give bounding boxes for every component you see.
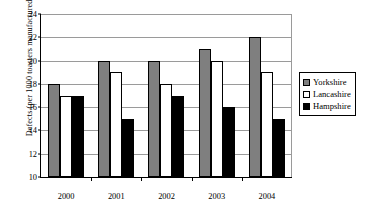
legend-swatch-icon xyxy=(303,91,310,98)
bar-yorkshire-2004 xyxy=(249,37,261,177)
x-tick-mark xyxy=(242,177,243,181)
bar-hampshire-2002 xyxy=(172,96,184,178)
bar-lancashire-2003 xyxy=(211,61,223,177)
bar-yorkshire-2002 xyxy=(148,61,160,177)
y-tick-label: 22 xyxy=(29,33,37,42)
y-tick-label: 18 xyxy=(29,79,37,88)
x-tick-mark xyxy=(192,177,193,181)
y-tick-label: 24 xyxy=(29,10,37,19)
bar-group xyxy=(242,14,292,177)
x-tick-label: 2004 xyxy=(259,192,276,201)
bar-group xyxy=(41,14,91,177)
y-tick-label: 10 xyxy=(29,173,37,182)
bar-lancashire-2001 xyxy=(110,72,122,177)
legend-item-hampshire[interactable]: Hampshire xyxy=(303,100,351,112)
bar-group xyxy=(141,14,191,177)
y-tick-label: 14 xyxy=(29,126,37,135)
bar-lancashire-2002 xyxy=(160,84,172,177)
bar-chart: Defects (per 1000 toasters manufactured)… xyxy=(0,0,372,203)
x-tick-label: 2000 xyxy=(58,192,75,201)
plot-area: 2422201816141210 20002001200220032004 xyxy=(40,14,292,178)
bar-lancashire-2000 xyxy=(60,96,72,178)
bar-lancashire-2004 xyxy=(261,72,273,177)
legend-label: Hampshire xyxy=(313,101,351,111)
legend-item-yorkshire[interactable]: Yorkshire xyxy=(303,76,351,88)
bar-hampshire-2000 xyxy=(72,96,84,178)
y-tick-label: 16 xyxy=(29,103,37,112)
legend-swatch-icon xyxy=(303,79,310,86)
legend-label: Yorkshire xyxy=(313,77,347,87)
legend-swatch-icon xyxy=(303,103,310,110)
bar-hampshire-2001 xyxy=(122,119,134,177)
bar-yorkshire-2000 xyxy=(48,84,60,177)
x-tick-label: 2001 xyxy=(108,192,125,201)
bar-hampshire-2003 xyxy=(223,107,235,177)
x-tick-mark xyxy=(141,177,142,181)
bar-hampshire-2004 xyxy=(273,119,285,177)
chart-legend: YorkshireLancashireHampshire xyxy=(299,72,356,116)
bars-layer xyxy=(41,14,292,177)
x-tick-label: 2002 xyxy=(158,192,175,201)
legend-label: Lancashire xyxy=(313,89,351,99)
legend-item-lancashire[interactable]: Lancashire xyxy=(303,88,351,100)
y-tick-label: 12 xyxy=(29,149,37,158)
bar-yorkshire-2003 xyxy=(199,49,211,177)
y-tick-label: 20 xyxy=(29,56,37,65)
bar-yorkshire-2001 xyxy=(98,61,110,177)
x-tick-mark xyxy=(91,177,92,181)
bar-group xyxy=(192,14,242,177)
bar-group xyxy=(91,14,141,177)
x-tick-label: 2003 xyxy=(208,192,225,201)
